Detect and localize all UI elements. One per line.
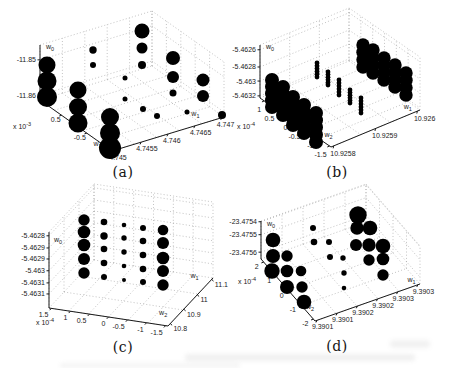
subplot-a: -11.85-11.860.5-0.54.7454.74554.7464.746… (0, 0, 228, 184)
data-point (157, 265, 169, 277)
data-point (297, 126, 311, 140)
w2-tick-mark (311, 319, 313, 320)
data-point (327, 254, 333, 260)
data-point (281, 265, 294, 278)
data-point (121, 235, 126, 240)
data-point (297, 295, 312, 310)
grid-line (303, 244, 357, 306)
data-point (326, 83, 331, 88)
data-point (78, 226, 91, 239)
data-point (350, 239, 362, 251)
data-point (140, 238, 147, 245)
data-point (377, 253, 390, 266)
grid-line (40, 61, 152, 95)
w0-tick-label: -5.4626 (232, 46, 256, 53)
w2-tick-label: -0.5 (112, 323, 124, 330)
data-point (78, 214, 89, 225)
w2-tick-label: -2 (302, 320, 308, 327)
grid-line (260, 8, 349, 45)
data-point (123, 97, 128, 102)
grid-line (152, 26, 224, 77)
w2-tick-label: 1.5 (39, 311, 49, 318)
w1-tick-label: 4.7455 (136, 145, 158, 152)
data-point (154, 113, 160, 119)
w0-axis-label: w0 (53, 236, 62, 245)
grid-line (152, 61, 224, 112)
grid-line (94, 223, 213, 241)
data-point (140, 279, 146, 285)
grid-line (69, 263, 114, 311)
data-point (197, 74, 210, 87)
grid-line (89, 266, 134, 314)
data-point (157, 237, 169, 249)
data-point (167, 71, 179, 83)
w2-tick-label: 2 (255, 263, 259, 270)
data-point (363, 221, 378, 236)
figure-page: -11.85-11.860.5-0.54.7454.74554.7464.746… (0, 0, 455, 368)
w0-tick-label: -11.85 (17, 56, 36, 63)
w2-tick-label: 0.5 (51, 116, 61, 123)
grid-line (107, 80, 179, 131)
w0-tick-label: -5.4632 (232, 92, 256, 99)
w1-tick-label: 11.1 (215, 281, 228, 288)
grid-line (109, 269, 154, 317)
w1-tick-label: 11 (200, 296, 207, 303)
w2-tick-label: 0.5 (77, 317, 87, 324)
w1-tick-label: 10.9258 (330, 150, 355, 157)
data-point (69, 114, 88, 133)
data-point (315, 75, 320, 80)
w1-tick-mark (212, 279, 214, 281)
w0-tick-label: -5.4631 (21, 279, 45, 286)
w2-tick-label: -1.5 (151, 329, 163, 336)
w2-tick-mark (327, 146, 329, 147)
w1-tick-label: 10.9259 (372, 132, 397, 139)
data-point (342, 286, 347, 291)
data-point (39, 57, 56, 74)
grid-line (94, 235, 213, 253)
w1-tick-mark (184, 309, 186, 311)
w0-tick-label: -23.4754 (229, 218, 257, 225)
w0-axis-label: w0 (265, 43, 274, 52)
data-point (363, 254, 374, 265)
grid-line (49, 184, 94, 232)
data-point (99, 137, 121, 159)
w1-tick-mark (375, 129, 376, 131)
data-point (280, 280, 294, 294)
data-point (122, 223, 127, 228)
w0-tick-label: -5.463 (25, 267, 45, 274)
grid-line (94, 188, 213, 206)
data-point (377, 269, 388, 280)
data-point (140, 225, 146, 231)
w2-tick-label: -1 (290, 306, 296, 313)
data-point (101, 246, 108, 253)
data-point (376, 239, 391, 254)
grid-line (83, 97, 195, 131)
grid-line (94, 200, 213, 218)
data-point (135, 24, 150, 39)
w1-axis-label: w1 (403, 103, 412, 112)
w1-tick-mark (170, 324, 172, 326)
w1-tick-mark (333, 146, 334, 148)
axis-exponent-label: x 10-3 (13, 121, 31, 130)
w2-axis-label: w2 (323, 131, 332, 140)
grid-line (366, 185, 420, 247)
caption-c: (c) (113, 339, 133, 355)
axis-exponent-label: x 10-4 (238, 276, 256, 285)
w0-axis-label: w0 (45, 43, 54, 52)
data-point (264, 263, 279, 278)
caption-b: (b) (326, 164, 347, 180)
data-point (311, 239, 318, 246)
data-point (78, 253, 90, 265)
data-point (350, 221, 363, 234)
w1-tick-label: 10.8 (173, 325, 187, 332)
data-point (137, 43, 148, 54)
data-point (197, 90, 209, 102)
w1-tick-mark (197, 295, 199, 297)
grid-line (49, 260, 94, 308)
data-point (140, 266, 147, 273)
data-point (362, 238, 375, 251)
grid-line (260, 13, 349, 50)
data-point (140, 106, 146, 112)
w1-tick-label: 9.3902 (352, 309, 374, 316)
data-point (296, 266, 307, 277)
